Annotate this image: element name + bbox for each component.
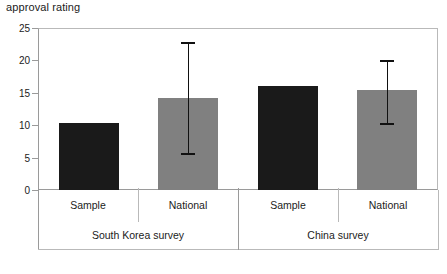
bar-china-survey-sample[interactable] (258, 86, 318, 190)
category-table-right-edge (438, 190, 439, 250)
group-label-0: South Korea survey (38, 220, 238, 250)
bars-layer (39, 28, 437, 190)
approval-rating-bar-chart: approval rating 0510152025 SampleNationa… (0, 0, 447, 274)
error-bar-cap-lower (181, 153, 195, 155)
y-axis-tick-label: 25 (0, 23, 30, 34)
y-axis-tick-label: 10 (0, 120, 30, 131)
y-axis-tick-label: 0 (0, 185, 30, 196)
error-bar-line (188, 42, 189, 153)
y-axis-tick-mark (32, 28, 38, 29)
category-label-1: National (138, 190, 238, 220)
y-axis-tick-mark (32, 93, 38, 94)
y-axis-tick-mark (32, 158, 38, 159)
y-axis-tick-label: 15 (0, 87, 30, 98)
group-row: South Korea surveyChina survey (38, 220, 438, 250)
error-bar-cap-lower (380, 123, 394, 125)
error-bar-cap-upper (181, 42, 195, 44)
chart-title: approval rating (6, 1, 80, 13)
category-label-table: SampleNationalSampleNational South Korea… (38, 190, 438, 250)
group-label-1: China survey (238, 220, 438, 250)
y-axis-tick-mark (32, 125, 38, 126)
y-axis-tick-label: 20 (0, 55, 30, 66)
y-axis-tick-label: 5 (0, 152, 30, 163)
category-label-2: Sample (238, 190, 338, 220)
y-axis-tick-mark (32, 60, 38, 61)
category-label-0: Sample (38, 190, 138, 220)
error-bar-cap-upper (380, 60, 394, 62)
bar-south-korea-survey-sample[interactable] (59, 123, 119, 190)
category-label-3: National (338, 190, 438, 220)
error-bar-line (387, 60, 388, 123)
